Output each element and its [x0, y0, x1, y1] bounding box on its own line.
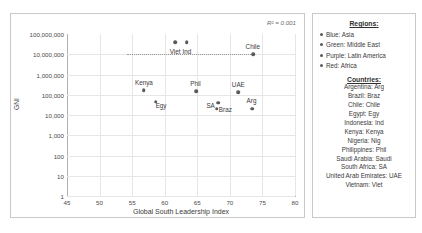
- gridline-vertical: [262, 34, 263, 196]
- data-point-label: Viet: [170, 47, 181, 54]
- chart-panel: R² = 0.001 GNI Global South Leadership I…: [10, 13, 305, 218]
- gridline-vertical: [132, 34, 133, 196]
- legend-country-item: Philippines: Phil: [313, 146, 415, 155]
- legend-region-label: Red: Africa: [326, 62, 357, 69]
- legend-country-item: Nigeria: Nig: [313, 137, 415, 146]
- x-tick-label: 45: [64, 199, 71, 206]
- data-point-marker[interactable]: [250, 107, 254, 111]
- r-squared-annotation: R² = 0.001: [267, 19, 296, 26]
- x-tick-label: 65: [194, 199, 201, 206]
- legend-countries-list: Argentina: ArgBrazil: BrazChile: ChileEg…: [313, 83, 415, 190]
- y-tick-label: 100: [54, 152, 64, 159]
- legend-region-item: Green: Middle East: [313, 41, 415, 48]
- legend-regions-title: Regions:: [313, 20, 415, 27]
- y-tick-label: 1,000: [49, 132, 64, 139]
- x-tick-label: 70: [226, 199, 233, 206]
- data-point-label: Braz: [219, 105, 232, 112]
- legend-region-label: Blue: Asia: [326, 31, 354, 38]
- data-point-marker[interactable]: [173, 40, 177, 44]
- legend-regions-list: Blue: AsiaGreen: Middle EastPurple: Lati…: [313, 31, 415, 70]
- data-point-label: Arg: [247, 97, 257, 104]
- legend-bullet-icon: [320, 64, 323, 67]
- plot-area: VietIndChileKenyaEgyPhilSABrazUAEArg: [67, 34, 295, 196]
- legend-region-label: Purple: Latin America: [326, 52, 386, 59]
- legend-region-item: Purple: Latin America: [313, 52, 415, 59]
- gridline-horizontal: [67, 95, 295, 96]
- gridline-vertical: [165, 34, 166, 196]
- data-point-marker[interactable]: [252, 52, 256, 56]
- gridline-vertical: [100, 34, 101, 196]
- gridline-vertical: [295, 34, 296, 196]
- legend-country-item: Indonesia: Ind: [313, 119, 415, 128]
- y-tick-label: 10,000,000: [33, 51, 64, 58]
- gridlines: [67, 34, 295, 196]
- legend-country-item: Saudi Arabia: Saudi: [313, 155, 415, 164]
- legend-bullet-icon: [320, 54, 323, 57]
- data-point-label: Egy: [156, 102, 167, 109]
- legend-country-item: Brazil: Braz: [313, 92, 415, 101]
- x-axis-ticks: 4550556065707580: [67, 199, 295, 211]
- legend-region-item: Red: Africa: [313, 62, 415, 69]
- legend-bullet-icon: [320, 33, 323, 36]
- legend-country-item: United Arab Emirates: UAE: [313, 172, 415, 181]
- gridline-horizontal: [67, 176, 295, 177]
- y-tick-label: 100,000: [42, 91, 64, 98]
- data-point-marker[interactable]: [216, 101, 220, 105]
- gridline-horizontal: [67, 115, 295, 116]
- y-tick-label: 10,000: [45, 112, 64, 119]
- gridline-horizontal: [67, 196, 295, 197]
- data-point-marker[interactable]: [237, 91, 241, 95]
- legend-country-item: Chile: Chile: [313, 101, 415, 110]
- legend-country-item: Vietnam: Viet: [313, 181, 415, 190]
- y-axis-ticks: 100,000,00010,000,0001,000,000100,00010,…: [11, 34, 64, 196]
- gridline-horizontal: [67, 156, 295, 157]
- gridline-vertical: [230, 34, 231, 196]
- data-point-label: Ind: [182, 47, 191, 54]
- data-point-label: Kenya: [135, 78, 153, 85]
- x-tick-label: 50: [96, 199, 103, 206]
- data-point-label: SA: [206, 101, 214, 108]
- y-tick-label: 10: [57, 172, 64, 179]
- legend-panel: Regions: Blue: AsiaGreen: Middle EastPur…: [312, 13, 416, 218]
- x-tick-label: 80: [292, 199, 299, 206]
- data-point-marker[interactable]: [194, 89, 198, 93]
- legend-country-item: Argentina: Arg: [313, 83, 415, 92]
- gridline-horizontal: [67, 135, 295, 136]
- y-tick-label: 100,000,000: [30, 31, 64, 38]
- legend-countries-title: Countries:: [313, 76, 415, 83]
- legend-country-item: South Africa: SA: [313, 163, 415, 172]
- legend-region-label: Green: Middle East: [326, 41, 380, 48]
- y-tick-label: 1,000,000: [36, 71, 64, 78]
- legend-country-item: Kenya: Kenya: [313, 128, 415, 137]
- data-point-marker[interactable]: [142, 88, 146, 92]
- trendline-dotted: [127, 54, 255, 55]
- legend-country-item: Egypt: Egy: [313, 110, 415, 119]
- gridline-vertical: [197, 34, 198, 196]
- data-point-label: UAE: [232, 80, 245, 87]
- scatter-chart-screenshot: R² = 0.001 GNI Global South Leadership I…: [0, 0, 422, 233]
- x-tick-label: 55: [129, 199, 136, 206]
- gridline-horizontal: [67, 75, 295, 76]
- data-point-marker[interactable]: [185, 40, 189, 44]
- data-point-label: Chile: [246, 42, 260, 49]
- x-tick-label: 75: [259, 199, 266, 206]
- legend-region-item: Blue: Asia: [313, 31, 415, 38]
- legend-bullet-icon: [320, 43, 323, 46]
- x-tick-label: 60: [161, 199, 168, 206]
- data-point-label: Phil: [190, 79, 201, 86]
